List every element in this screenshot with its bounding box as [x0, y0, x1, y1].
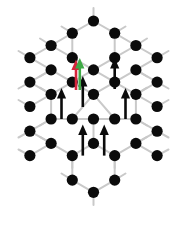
lattice-node: [24, 150, 35, 161]
lattice-node: [130, 89, 141, 100]
lattice-node: [152, 52, 163, 63]
lattice-node: [67, 150, 78, 161]
lattice-node: [67, 113, 78, 124]
lattice-node: [24, 52, 35, 63]
lattice-node: [152, 150, 163, 161]
lattice-node: [88, 64, 99, 75]
lattice-node: [109, 175, 120, 186]
lattice-node: [88, 89, 99, 100]
lattice-node: [109, 150, 120, 161]
lattice-node: [46, 89, 57, 100]
lattice-node: [24, 126, 35, 137]
lattice-node: [46, 64, 57, 75]
lattice-node: [88, 138, 99, 149]
lattice-node: [67, 175, 78, 186]
lattice-node: [130, 40, 141, 51]
lattice-node: [46, 138, 57, 149]
lattice-node: [67, 28, 78, 39]
lattice-node: [130, 138, 141, 149]
lattice-canvas: [0, 0, 187, 226]
lattice-node: [130, 64, 141, 75]
lattice-node: [24, 77, 35, 88]
lattice-node: [130, 113, 141, 124]
lattice-node: [88, 15, 99, 26]
lattice-node: [152, 101, 163, 112]
lattice-node: [152, 126, 163, 137]
lattice-figure: [0, 0, 187, 226]
lattice-node: [46, 40, 57, 51]
lattice-node: [88, 113, 99, 124]
lattice-node: [46, 113, 57, 124]
lattice-node: [109, 113, 120, 124]
lattice-node: [109, 28, 120, 39]
lattice-node: [152, 77, 163, 88]
lattice-node: [24, 101, 35, 112]
lattice-node: [88, 187, 99, 198]
